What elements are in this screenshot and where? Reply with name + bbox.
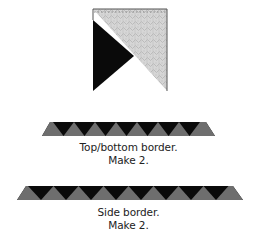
caption-line-1: Top/bottom border. — [0, 141, 257, 154]
top-bottom-border-caption: Top/bottom border. Make 2. — [0, 141, 257, 167]
side-border-strip — [16, 185, 244, 201]
side-border-caption: Side border. Make 2. — [0, 206, 257, 232]
caption-line-2: Make 2. — [0, 219, 257, 232]
quilt-block-diagram — [92, 8, 169, 93]
caption-line-2: Make 2. — [0, 154, 257, 167]
top-bottom-border-strip — [41, 121, 216, 137]
caption-line-1: Side border. — [0, 206, 257, 219]
